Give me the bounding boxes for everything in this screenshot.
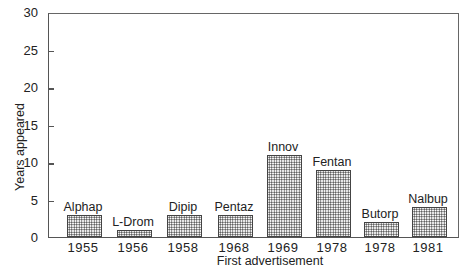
bar-label: Fentan: [302, 156, 362, 169]
y-tick-label: 0: [0, 231, 38, 244]
bar-dipip: [167, 215, 202, 238]
x-tick-label: 1956: [108, 241, 158, 255]
x-tick-label: 1968: [209, 241, 259, 255]
x-tick-label: 1978: [307, 241, 357, 255]
y-tick-label: 15: [0, 119, 38, 132]
y-tick-label: 20: [0, 81, 38, 94]
y-tick-mark: [48, 88, 54, 90]
x-tick-label: 1978: [355, 241, 405, 255]
x-axis-title: First advertisement: [170, 254, 370, 268]
y-tick-label: 30: [0, 6, 38, 19]
bar-fentan: [316, 170, 351, 238]
bar-label: L-Drom: [103, 216, 163, 229]
bar-label: Alphap: [53, 201, 113, 214]
x-tick-label: 1958: [158, 241, 208, 255]
bar-label: Butorp: [350, 208, 410, 221]
bar-butorp: [364, 222, 399, 237]
bar-innov: [267, 155, 302, 238]
bar-label: Innov: [253, 141, 313, 154]
y-tick-label: 10: [0, 156, 38, 169]
bar-label: Pentaz: [204, 201, 264, 214]
y-tick-mark: [48, 163, 54, 165]
y-tick-mark: [48, 51, 54, 53]
y-axis-title: Years appeared: [13, 97, 27, 197]
bar-pentaz: [218, 215, 253, 238]
bar-l-drom: [117, 230, 152, 238]
y-tick-label: 25: [0, 44, 38, 57]
bar-label: Nalbup: [398, 193, 458, 206]
y-tick-label: 5: [0, 194, 38, 207]
bar-nalbup: [412, 207, 447, 237]
x-tick-label: 1981: [403, 241, 453, 255]
bar-alphap: [67, 215, 102, 238]
x-tick-label: 1969: [258, 241, 308, 255]
x-tick-label: 1955: [58, 241, 108, 255]
y-tick-mark: [48, 126, 54, 128]
